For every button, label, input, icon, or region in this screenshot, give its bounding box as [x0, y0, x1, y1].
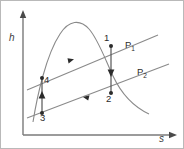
state-label-1: 1 [104, 33, 109, 43]
pressure-label-p2-subscript: 2 [143, 72, 147, 79]
state-label-2: 2 [106, 94, 111, 104]
entropy-axis-arrowhead [169, 132, 177, 138]
saturation-dome-group [33, 22, 149, 122]
pressure-label-p1-subscript: 1 [131, 45, 135, 52]
arrowhead-4-to-1 [68, 58, 75, 63]
diagram-canvas [1, 1, 184, 149]
pressure-line-p2-group [27, 64, 169, 118]
state-label-4: 4 [44, 75, 49, 85]
pressure-label-p1: P1 [125, 40, 135, 52]
hs-diagram-figure: h s 1 2 3 4 P1 P2 [0, 0, 184, 149]
enthalpy-axis-arrowhead [20, 10, 26, 18]
state-label-3: 3 [40, 113, 45, 123]
arrowhead-3-to-4 [39, 91, 46, 99]
enthalpy-axis-label: h [9, 33, 15, 43]
state-dot-1 [109, 44, 113, 48]
saturation-dome-curve [33, 22, 149, 122]
process-4-to-1-arrow [68, 58, 75, 63]
entropy-axis-label: s [159, 134, 164, 144]
pressure-label-p2: P2 [137, 67, 147, 79]
pressure-line-p2 [27, 64, 169, 118]
